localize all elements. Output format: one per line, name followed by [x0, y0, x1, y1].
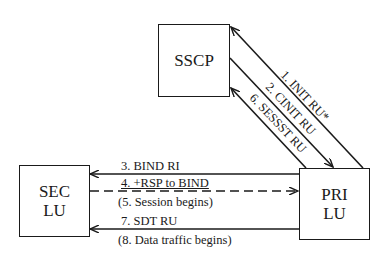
label-rsp-bind: 4. +RSP to BIND — [121, 176, 209, 190]
arrow-sessst-ru — [231, 88, 306, 168]
label-sdt-ru: 7. SDT RU — [121, 214, 177, 228]
pri-lu-label-line1: PRI — [321, 185, 347, 204]
pri-lu-node: PRI LU — [299, 168, 370, 240]
label-session-begins: (5. Session begins) — [118, 195, 213, 209]
pri-lu-label-line2: LU — [323, 204, 346, 223]
sec-lu-label-line1: SEC — [39, 182, 70, 201]
sscp-label: SSCP — [174, 51, 214, 70]
label-bind-ri: 3. BIND RI — [121, 159, 180, 173]
sec-lu-node: SEC LU — [19, 165, 90, 237]
label-data-traffic-begins: (8. Data traffic begins) — [118, 233, 232, 247]
sec-lu-label-line2: LU — [43, 201, 66, 220]
sscp-node: SSCP — [158, 24, 230, 97]
